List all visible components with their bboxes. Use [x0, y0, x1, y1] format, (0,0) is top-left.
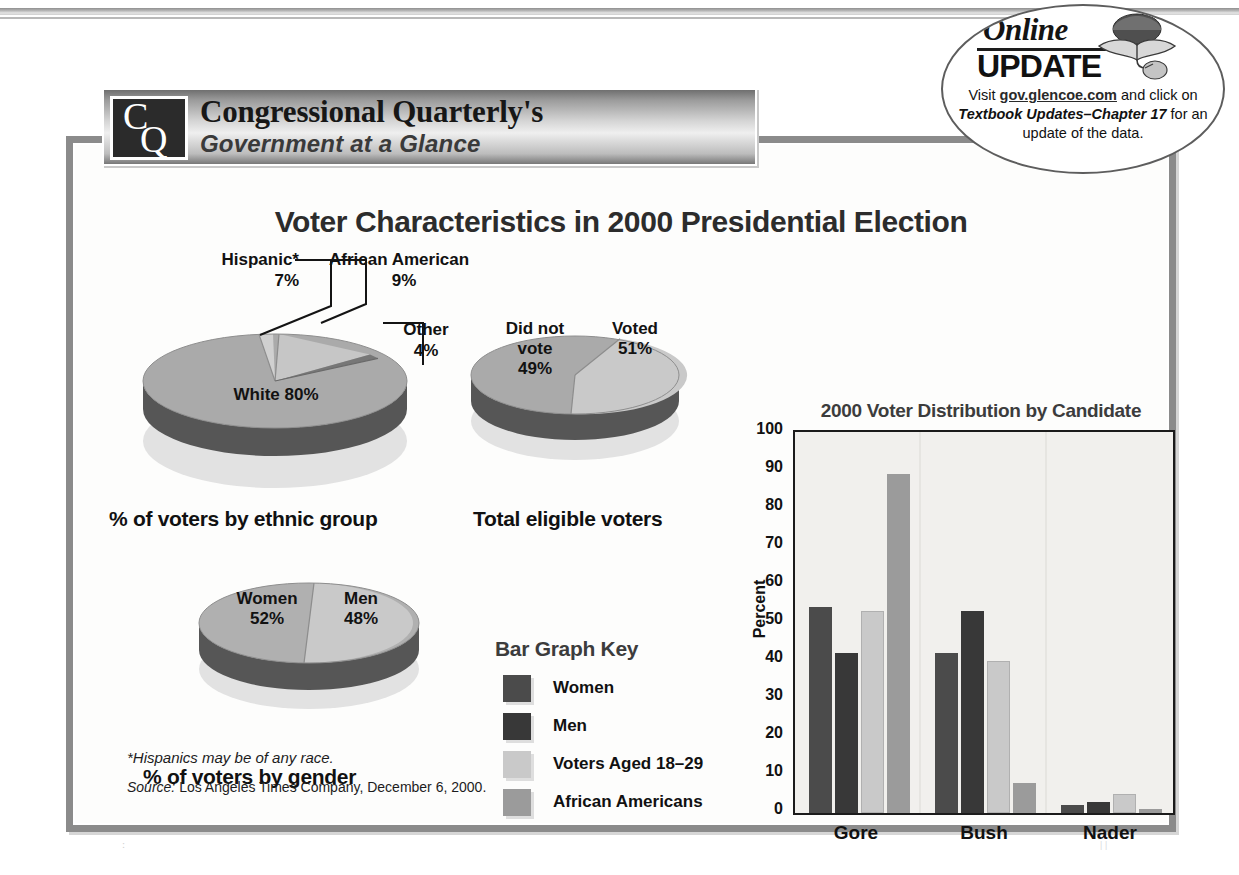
- legend-label-women: Women: [553, 678, 614, 698]
- ytick-30: 30: [765, 686, 783, 704]
- ou-prefix: Visit: [968, 87, 999, 103]
- bar-group-gore: [809, 432, 919, 813]
- ytick-0: 0: [774, 800, 783, 818]
- bar-nader-african-americans: [1139, 809, 1162, 813]
- xtick-bush: Bush: [921, 822, 1047, 844]
- plot-separator-2: [1045, 432, 1047, 813]
- ytick-80: 80: [765, 496, 783, 514]
- online-update-instructions: Visit gov.glencoe.com and click on Textb…: [957, 86, 1209, 143]
- legend-label-african-americans: African Americans: [553, 792, 703, 812]
- cq-title-line-2: Government at a Glance: [200, 130, 543, 158]
- bar-bush-african-americans: [1013, 783, 1036, 813]
- source-label: Source:: [127, 779, 175, 795]
- source-line: Source: Los Angeles Times Company, Decem…: [127, 779, 486, 795]
- ou-mid: and click on: [1117, 87, 1198, 103]
- legend-swatch-women: [503, 675, 531, 702]
- legend-item-men: Men: [495, 707, 745, 745]
- bar-chart-y-axis-ticks: 100 90 80 70 60 50 40 30 20 10 0: [737, 424, 789, 811]
- bar-graph-key-title: Bar Graph Key: [495, 637, 745, 661]
- footnote-hispanics: *Hispanics may be of any race.: [127, 749, 334, 766]
- legend-label-voters-aged-18-29: Voters Aged 18–29: [553, 754, 703, 774]
- pie-slice-label-men: Men 48%: [323, 589, 399, 629]
- figure-frame: Voter Characteristics in 2000 Presidenti…: [66, 136, 1176, 832]
- bar-gore-men: [835, 653, 858, 813]
- bar-group-nader: [1061, 432, 1171, 813]
- glencoe-link[interactable]: gov.glencoe.com: [1000, 87, 1117, 103]
- ytick-100: 100: [756, 420, 783, 438]
- legend-swatch-men: [503, 713, 531, 740]
- online-update-word-update: UPDATE: [977, 49, 1101, 83]
- callout-hispanic: Hispanic* 7%: [169, 249, 299, 291]
- online-update-badge[interactable]: Online UPDATE Visit gov.glencoe.com and …: [941, 4, 1225, 174]
- bar-graph-key: Bar Graph Key Women Men Voters Aged 18–2…: [495, 637, 745, 821]
- bar-bush-voters-aged-18-29: [987, 661, 1010, 813]
- callout-african-american: African American 9%: [329, 249, 479, 291]
- legend-swatch-african-americans: [503, 789, 531, 816]
- bar-nader-men: [1087, 802, 1110, 813]
- plot-separator-1: [919, 432, 921, 813]
- pie-slice-label-voted: Voted 51%: [595, 319, 675, 359]
- open-book-with-mouse-icon: [1093, 12, 1183, 84]
- cq-title-line-1: Congressional Quarterly's: [200, 94, 543, 130]
- cq-logo-letter-q: Q: [140, 120, 167, 158]
- ytick-20: 20: [765, 724, 783, 742]
- ytick-90: 90: [765, 458, 783, 476]
- cq-titles: Congressional Quarterly's Government at …: [200, 94, 543, 158]
- bar-chart-title: 2000 Voter Distribution by Candidate: [785, 400, 1177, 422]
- cq-header-plate: C Q Congressional Quarterly's Government…: [102, 88, 757, 166]
- legend-item-women: Women: [495, 669, 745, 707]
- bar-chart-plot-area: [793, 430, 1175, 815]
- online-update-word-online: Online: [983, 14, 1068, 45]
- pie-gender-svg: [193, 553, 443, 733]
- source-text: Los Angeles Times Company, December 6, 2…: [175, 779, 486, 795]
- legend-label-men: Men: [553, 716, 587, 736]
- bar-bush-men: [961, 611, 984, 813]
- xtick-gore: Gore: [793, 822, 919, 844]
- pie-caption-eligible-voters: Total eligible voters: [473, 507, 662, 531]
- callout-other: Other 4%: [393, 319, 459, 361]
- cq-logo: C Q: [110, 96, 188, 160]
- bar-chart: 2000 Voter Distribution by Candidate Per…: [737, 400, 1177, 870]
- xtick-nader: Nader: [1047, 822, 1173, 844]
- ytick-10: 10: [765, 762, 783, 780]
- pie-caption-ethnic-group: % of voters by ethnic group: [109, 507, 377, 531]
- bar-gore-voters-aged-18-29: [861, 611, 884, 813]
- pie-slice-label-did-not-vote: Did not vote 49%: [487, 319, 583, 379]
- page-title: Voter Characteristics in 2000 Presidenti…: [75, 205, 1167, 239]
- ytick-70: 70: [765, 534, 783, 552]
- bar-nader-voters-aged-18-29: [1113, 794, 1136, 813]
- pie-chart-gender: [193, 553, 443, 733]
- bar-group-bush: [935, 432, 1045, 813]
- ytick-50: 50: [765, 610, 783, 628]
- bar-nader-women: [1061, 805, 1084, 813]
- ytick-60: 60: [765, 572, 783, 590]
- figure-frame-inner: Voter Characteristics in 2000 Presidenti…: [73, 143, 1169, 825]
- legend-item-african-americans: African Americans: [495, 783, 745, 821]
- legend-swatch-voters-aged-18-29: [503, 751, 531, 778]
- legend-item-voters-aged-18-29: Voters Aged 18–29: [495, 745, 745, 783]
- scan-artifact-left: :: [122, 838, 125, 850]
- pie-slice-label-white: White 80%: [201, 385, 351, 405]
- page-top-hairline: [0, 17, 1100, 19]
- ou-chapter-ref: Textbook Updates–Chapter 17: [958, 106, 1166, 122]
- bar-bush-women: [935, 653, 958, 813]
- bar-gore-women: [809, 607, 832, 813]
- bar-gore-african-americans: [887, 474, 910, 813]
- pie-slice-label-women: Women 52%: [221, 589, 313, 629]
- ytick-40: 40: [765, 648, 783, 666]
